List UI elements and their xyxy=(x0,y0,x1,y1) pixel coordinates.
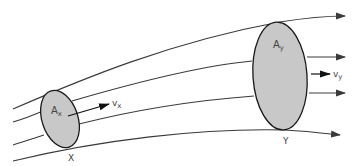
cross-section-y: Ay vy Y xyxy=(249,20,342,146)
area-ellipse-x xyxy=(34,85,86,152)
velocity-label-x: vx xyxy=(112,98,121,110)
point-label-y: Y xyxy=(282,136,289,146)
streamline-3-left xyxy=(13,135,44,145)
streamline-3-mid xyxy=(79,96,254,124)
velocity-label-y: vy xyxy=(333,69,342,81)
streamline-2-mid xyxy=(72,61,252,101)
point-label-x: X xyxy=(68,153,74,163)
cross-section-x: Ax vx X xyxy=(34,85,122,163)
flow-tube-diagram: Ax vx X Ay vy Y xyxy=(0,0,354,166)
area-ellipse-y xyxy=(249,20,310,132)
